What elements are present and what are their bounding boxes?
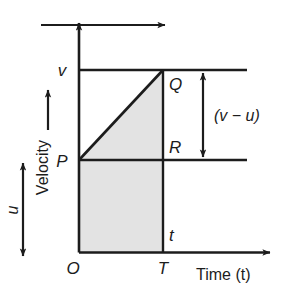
point-label-Q: Q xyxy=(169,75,182,94)
t-line-label: t xyxy=(169,226,175,245)
point-label-P: P xyxy=(56,152,68,171)
point-label-R: R xyxy=(169,138,181,157)
origin-label: O xyxy=(66,259,79,278)
shaded-rectangle-OPRT xyxy=(79,160,163,252)
y-axis-title: Velocity xyxy=(34,140,51,195)
v-minus-u-label: (v − u) xyxy=(214,107,260,124)
velocity-time-graph-figure: v Q R P t O T Time (t) (v − u) Velocity … xyxy=(0,0,285,301)
y-tick-label-v: v xyxy=(58,61,68,80)
x-tick-label-T: T xyxy=(158,259,170,278)
x-axis-title: Time (t) xyxy=(196,266,251,283)
initial-velocity-label: u xyxy=(4,205,21,214)
